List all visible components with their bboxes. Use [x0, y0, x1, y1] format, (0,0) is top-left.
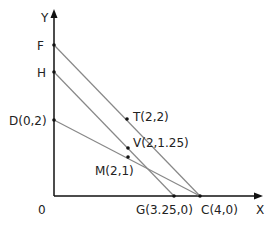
- point-t: [125, 117, 129, 121]
- label-f: F: [37, 39, 44, 53]
- point-h: [52, 70, 56, 74]
- x-axis-label: X: [256, 203, 264, 217]
- origin-label: 0: [38, 203, 46, 217]
- point-d: [52, 118, 56, 122]
- point-f: [52, 43, 56, 47]
- label-m: M(2,1): [95, 164, 134, 178]
- y-axis-arrow-icon: [51, 9, 58, 18]
- label-h: H: [37, 66, 46, 80]
- label-v: V(2,1.25): [133, 136, 189, 150]
- geometry-diagram: Y X 0 F H D(0,2) T(2,2) V(2,1.25) M(2,1)…: [0, 0, 273, 234]
- point-c: [198, 194, 202, 198]
- point-g: [172, 194, 176, 198]
- point-m: [126, 155, 130, 159]
- label-d: D(0,2): [9, 114, 47, 128]
- label-t: T(2,2): [132, 110, 169, 124]
- label-c: C(4,0): [201, 203, 238, 217]
- label-g: G(3.25,0): [136, 203, 193, 217]
- y-axis-label: Y: [40, 11, 49, 25]
- point-v: [126, 146, 130, 150]
- x-axis-arrow-icon: [254, 193, 263, 200]
